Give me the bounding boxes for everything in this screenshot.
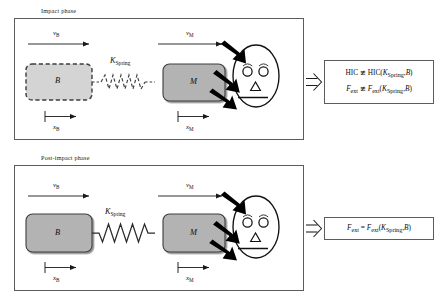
equation-fext-post: Fext = Fext(KSpring,B) <box>347 224 411 234</box>
label-block-M-impact: M <box>190 77 197 86</box>
phase-label-post-impact: Post-impact phase <box>41 154 90 161</box>
equation-fext-impact: Fext ≇ Fext(KSpring,B) <box>346 85 412 95</box>
result-box-post-impact-phase: Fext = Fext(KSpring,B) <box>324 217 434 240</box>
label-xM-impact: xM <box>186 123 194 131</box>
label-block-M-post: M <box>190 228 197 237</box>
connector-double-arrow-impact <box>306 74 322 91</box>
phase-label-impact: Impact phase <box>41 7 76 14</box>
connector-double-arrow-post <box>306 220 322 237</box>
label-xM-post: xM <box>186 274 194 282</box>
label-block-B-post: B <box>55 228 60 237</box>
label-K-spring-impact: KSpring <box>110 56 130 65</box>
label-vM-impact: vM <box>186 29 194 37</box>
label-K-spring-post: KSpring <box>105 207 125 216</box>
result-box-impact-phase: HIC ≇ HIC(KSpring,B) Fext ≇ Fext(KSpring… <box>324 60 434 104</box>
impact-model-figure: Impact phase Post-impact phase <box>0 0 438 307</box>
label-xB-post: xB <box>53 274 60 282</box>
equation-hic: HIC ≇ HIC(KSpring,B) <box>345 69 412 79</box>
label-xB-impact: xB <box>53 123 60 131</box>
label-block-B-impact: B <box>55 76 60 85</box>
label-vM-post: vM <box>186 181 194 189</box>
label-vB-post: vB <box>53 181 60 189</box>
label-vB-impact: vB <box>53 29 60 37</box>
